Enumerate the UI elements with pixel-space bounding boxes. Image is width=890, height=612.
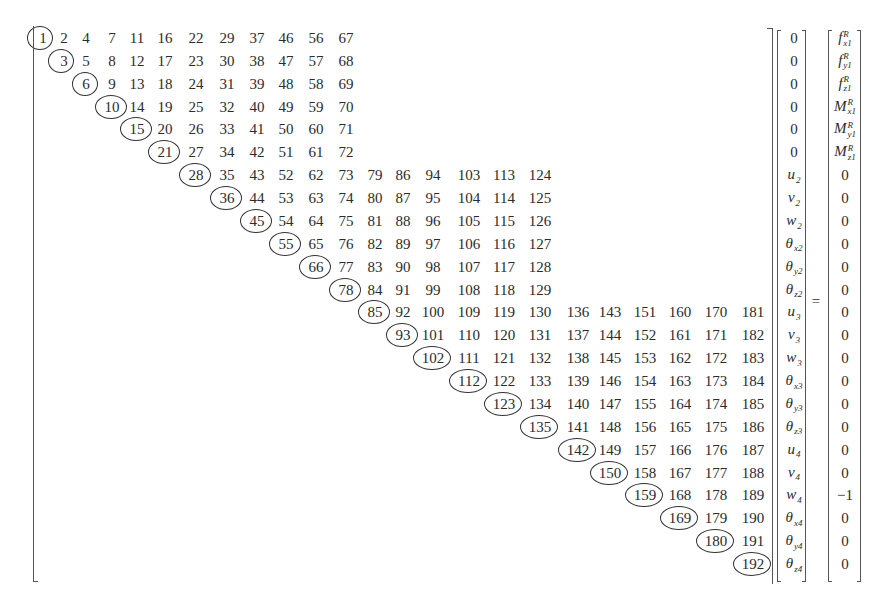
vector-symbol: θ [786, 532, 793, 548]
vector-symbol: v [788, 189, 795, 205]
matrix-entry: 90 [396, 258, 411, 276]
diagonal-circle [269, 232, 301, 256]
matrix-entry: 91 [396, 281, 411, 299]
matrix-entry: 109 [458, 303, 481, 321]
matrix-entry: 165 [669, 418, 692, 436]
matrix-entry: 162 [669, 349, 692, 367]
vector-symbol: 0 [841, 373, 849, 389]
displacement-vector-right-brace [805, 30, 806, 582]
matrix-entry: 152 [634, 326, 657, 344]
matrix-entry: 67 [339, 29, 354, 47]
displacement-vector-brace-tip [802, 581, 806, 582]
matrix-entry: 128 [529, 258, 552, 276]
force-vector-entry: 0 [841, 555, 849, 573]
diagonal-circle [358, 300, 390, 324]
subscript: 3 [796, 313, 801, 322]
matrix-entry: 191 [742, 532, 765, 550]
matrix-entry: 185 [742, 395, 765, 413]
matrix-entry: 54 [279, 212, 294, 230]
diagonal-circle [210, 186, 242, 210]
subscript: z4 [794, 565, 802, 574]
matrix-entry: 179 [705, 509, 728, 527]
matrix-entry: 181 [742, 303, 765, 321]
subscript: 3 [797, 359, 802, 368]
matrix-entry: 143 [599, 303, 622, 321]
matrix-entry: 65 [309, 235, 324, 253]
matrix-entry: 130 [529, 303, 552, 321]
matrix-entry: 151 [634, 303, 657, 321]
matrix-entry: 49 [279, 98, 294, 116]
displacement-vector-entry: w 2 [786, 211, 802, 231]
matrix-entry: 168 [669, 486, 692, 504]
diagonal-circle [299, 255, 331, 279]
displacement-vector-entry: θ x4 [786, 508, 803, 528]
matrix-entry: 176 [705, 441, 728, 459]
displacement-vector-entry: v 2 [788, 188, 800, 208]
matrix-entry: 83 [368, 258, 383, 276]
matrix-entry: 188 [742, 464, 765, 482]
displacement-vector-entry: 0 [790, 143, 798, 161]
matrix-entry: 77 [339, 258, 354, 276]
subscript: y1 [843, 62, 852, 71]
subscript: 2 [796, 176, 801, 185]
displacement-vector-entry: θ y2 [786, 257, 803, 277]
matrix-entry: 146 [599, 372, 622, 390]
matrix-entry: 164 [669, 395, 692, 413]
matrix-entry: 161 [669, 326, 692, 344]
vector-symbol: 0 [841, 510, 849, 526]
diagonal-circle [660, 506, 698, 530]
matrix-right-bracket-top [767, 28, 773, 29]
matrix-entry: 40 [250, 98, 265, 116]
matrix-entry: 87 [396, 189, 411, 207]
matrix-entry: 30 [220, 52, 235, 70]
matrix-entry: 141 [567, 418, 590, 436]
matrix-entry: 108 [458, 281, 481, 299]
diagonal-circle [179, 163, 211, 187]
matrix-entry: 29 [220, 29, 235, 47]
force-vector-entry: 0 [841, 303, 849, 321]
vector-symbol: 0 [841, 167, 849, 183]
diagonal-circle [120, 117, 152, 141]
force-vector-entry: 0 [841, 464, 849, 482]
vector-symbol: 0 [841, 282, 849, 298]
vector-symbol: f [838, 75, 842, 91]
subscript: x4 [794, 519, 803, 528]
diagonal-circle [240, 209, 272, 233]
subscript: x2 [794, 245, 803, 254]
matrix-entry: 41 [250, 120, 265, 138]
force-vector-left-brace [828, 30, 829, 582]
vector-symbol: 0 [841, 556, 849, 572]
matrix-entry: 53 [279, 189, 294, 207]
equals-sign: = [812, 293, 820, 310]
matrix-entry: 57 [309, 52, 324, 70]
matrix-entry: 5 [82, 52, 90, 70]
matrix-entry: 39 [250, 75, 265, 93]
matrix-entry: 106 [458, 235, 481, 253]
vector-symbol: θ [786, 235, 793, 251]
vector-symbol: 0 [790, 76, 798, 92]
matrix-entry: 14 [130, 98, 145, 116]
matrix-entry: 86 [396, 166, 411, 184]
diagonal-circle [386, 323, 418, 347]
matrix-entry: 134 [529, 395, 552, 413]
displacement-vector-entry: θ y4 [786, 531, 803, 551]
matrix-entry: 104 [458, 189, 481, 207]
matrix-entry: 133 [529, 372, 552, 390]
diagonal-circle [733, 552, 771, 576]
force-vector-entry: −1 [837, 486, 853, 504]
matrix-entry: 73 [339, 166, 354, 184]
vector-symbol: 0 [841, 396, 849, 412]
vector-symbol: M [834, 98, 847, 114]
matrix-entry: 16 [158, 29, 173, 47]
force-vector-entry: 0 [841, 349, 849, 367]
matrix-entry: 34 [220, 143, 235, 161]
matrix-entry: 84 [368, 281, 383, 299]
matrix-entry: 175 [705, 418, 728, 436]
vector-symbol: f [838, 52, 842, 68]
matrix-entry: 127 [529, 235, 552, 253]
matrix-entry: 38 [250, 52, 265, 70]
displacement-vector-entry: w 3 [786, 348, 802, 368]
matrix-entry: 13 [130, 75, 145, 93]
matrix-entry: 61 [309, 143, 324, 161]
matrix-entry: 116 [493, 235, 515, 253]
